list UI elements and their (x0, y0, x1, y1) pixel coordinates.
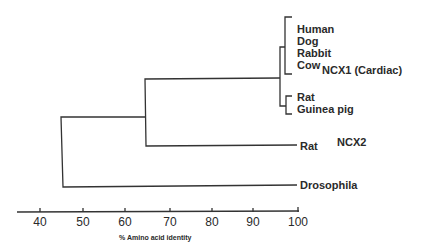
leaf-cow: Cow (297, 59, 320, 71)
tick-label-70: 70 (163, 215, 176, 229)
leaf-rat-ncx1: Rat (297, 91, 315, 103)
rat-guineapig-bracket (286, 96, 292, 114)
x-axis-label: % Amino acid identity (119, 234, 191, 241)
root-node (61, 117, 297, 187)
leaf-guinea-pig: Guinea pig (297, 103, 354, 115)
tick-label-60: 60 (118, 215, 131, 229)
leaf-rat-ncx2: Rat (300, 140, 318, 152)
leaf-rabbit: Rabbit (297, 47, 331, 59)
tree-lines (0, 0, 421, 250)
tick-label-90: 90 (246, 215, 259, 229)
tick-label-80: 80 (205, 215, 218, 229)
tick-label-50: 50 (76, 215, 89, 229)
leaf-dog: Dog (297, 35, 318, 47)
group-ncx1-label: NCX1 (Cardiac) (322, 64, 402, 76)
x-axis-line (17, 211, 299, 212)
tick-label-40: 40 (33, 215, 46, 229)
leaf-drosophila: Drosophila (300, 179, 357, 191)
group-ncx2-label: NCX2 (337, 136, 366, 148)
ncx1-ncx2-node (145, 78, 297, 146)
leaf-human: Human (297, 23, 334, 35)
tick-label-100: 100 (288, 215, 308, 229)
ncx1-cardiac-bracket (285, 17, 292, 74)
